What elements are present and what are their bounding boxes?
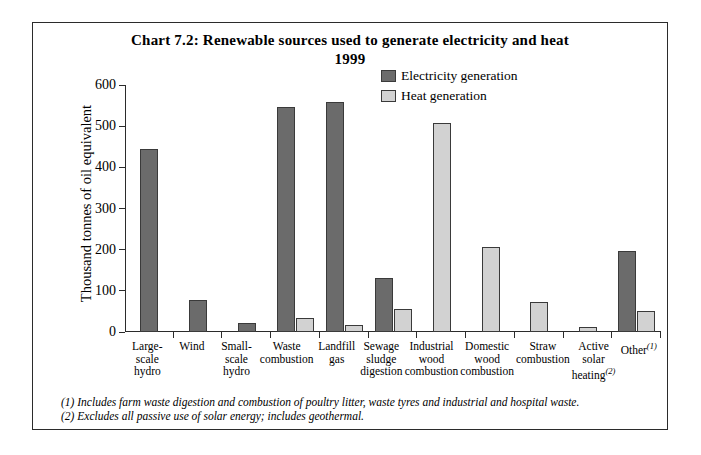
bar-group xyxy=(515,85,564,332)
x-axis-label-line: digestion xyxy=(360,365,403,378)
x-axis-label-line: Domestic xyxy=(460,340,514,353)
x-axis-label-line: Industrial xyxy=(405,340,459,353)
bar xyxy=(238,323,256,332)
x-axis-label-line: hydro xyxy=(215,365,258,378)
y-axis-tick-label: 400 xyxy=(84,159,116,175)
x-axis-label: Sewagesludgedigestion xyxy=(359,340,404,381)
y-axis-tick: 500 xyxy=(84,118,125,134)
x-axis-label: Activesolarheating(2) xyxy=(571,340,617,381)
bar xyxy=(579,327,597,332)
x-axis-label-line: heating(2) xyxy=(572,365,616,381)
y-axis-tick-label: 500 xyxy=(84,118,116,134)
bar xyxy=(326,102,344,332)
y-axis-tick-label: 300 xyxy=(84,201,116,217)
x-axis-label-line: hydro xyxy=(126,365,169,378)
plot-wrapper: Thousand tonnes of oil equivalent 600500… xyxy=(33,23,667,429)
x-axis-label-line: Straw xyxy=(516,340,570,353)
x-axis-label-line: scale xyxy=(215,353,258,366)
x-axis-label: Strawcombustion xyxy=(515,340,571,381)
x-axis-label: Wastecombustion xyxy=(259,340,315,381)
x-axis-label-line: Wind xyxy=(171,340,214,353)
bar xyxy=(345,325,363,332)
x-axis-label-line: solar xyxy=(572,353,616,366)
x-axis-label: Industrialwoodcombustion xyxy=(404,340,460,381)
y-axis-tick: 600 xyxy=(84,77,125,93)
y-axis-tick: 0 xyxy=(84,324,125,340)
bar-group xyxy=(320,85,369,332)
bar xyxy=(394,309,412,332)
plot-area: 6005004003002001000 xyxy=(125,85,661,332)
bar xyxy=(277,107,295,332)
bar-group xyxy=(222,85,271,332)
x-axis-label-line: scale xyxy=(126,353,169,366)
footnote: (1) Includes farm waste digestion and co… xyxy=(61,395,641,409)
y-axis-tick: 400 xyxy=(84,159,125,175)
bar-group xyxy=(125,85,174,332)
y-axis-tick-label: 0 xyxy=(84,324,116,340)
x-axis-label-line: combustion xyxy=(405,365,459,378)
bar-group xyxy=(564,85,613,332)
bar xyxy=(482,247,500,332)
bar xyxy=(296,318,314,332)
bar xyxy=(140,149,158,332)
x-axis-label: Landfillgas xyxy=(314,340,359,381)
x-axis-label: Wind xyxy=(170,340,215,381)
x-axis-label-line: combustion xyxy=(260,353,314,366)
y-axis-tick-label: 200 xyxy=(84,242,116,258)
bar xyxy=(637,311,655,332)
x-axis-label-line: Active xyxy=(572,340,616,353)
bar xyxy=(433,123,451,332)
bar-group xyxy=(417,85,466,332)
bar-group xyxy=(271,85,320,332)
y-axis-tick: 300 xyxy=(84,201,125,217)
x-axis-label-line: Other(1) xyxy=(617,340,660,356)
x-axis-label-line: wood xyxy=(460,353,514,366)
x-axis-label-line: combustion xyxy=(460,365,514,378)
y-axis-tick-label: 600 xyxy=(84,77,116,93)
x-axis-label-line: Large- xyxy=(126,340,169,353)
x-axis-label-line: wood xyxy=(405,353,459,366)
bar-group xyxy=(466,85,515,332)
bar-group xyxy=(369,85,418,332)
bar-group xyxy=(174,85,223,332)
x-axis-label: Small-scalehydro xyxy=(214,340,259,381)
x-axis-label-line: Waste xyxy=(260,340,314,353)
footnotes: (1) Includes farm waste digestion and co… xyxy=(61,395,641,423)
footnote-marker: (1) xyxy=(647,341,657,351)
x-axis-label-line: Small- xyxy=(215,340,258,353)
footnote: (2) Excludes all passive use of solar en… xyxy=(61,409,641,423)
bar-group-container xyxy=(125,85,661,332)
x-axis-labels: Large-scalehydroWindSmall-scalehydroWast… xyxy=(125,340,661,381)
x-axis-label-line: Landfill xyxy=(315,340,358,353)
x-axis-label-line: combustion xyxy=(516,353,570,366)
x-axis-label-line: Sewage xyxy=(360,340,403,353)
x-axis-label: Domesticwoodcombustion xyxy=(459,340,515,381)
bar xyxy=(530,302,548,332)
bar-group xyxy=(612,85,661,332)
footnote-marker: (2) xyxy=(606,366,616,376)
x-axis-label-line: gas xyxy=(315,353,358,366)
y-axis-tick: 200 xyxy=(84,242,125,258)
x-axis-label: Large-scalehydro xyxy=(125,340,170,381)
y-axis-tick: 100 xyxy=(84,283,125,299)
bar xyxy=(375,278,393,332)
chart-frame: Chart 7.2: Renewable sources used to gen… xyxy=(32,22,668,430)
x-axis-label: Other(1) xyxy=(616,340,661,381)
bar xyxy=(618,251,636,332)
bar xyxy=(189,300,207,332)
y-axis-tick-label: 100 xyxy=(84,283,116,299)
x-axis-label-line: sludge xyxy=(360,353,403,366)
